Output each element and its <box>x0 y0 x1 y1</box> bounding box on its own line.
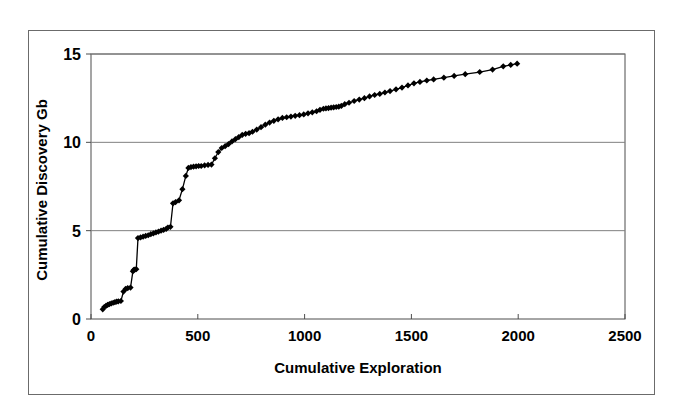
x-tick-label-0: 0 <box>87 327 95 344</box>
y-tick-labels-group: 051015 <box>63 46 81 328</box>
y-tick-label-10: 10 <box>63 134 81 151</box>
plot-area <box>91 54 625 319</box>
y-tick-label-15: 15 <box>63 46 81 63</box>
x-tick-label-1500: 1500 <box>395 327 428 344</box>
y-axis-label: Cumulative Discovery Gb <box>33 99 50 281</box>
chart-canvas: 05001000150020002500 051015 Cumulative E… <box>0 0 676 417</box>
x-tick-label-500: 500 <box>185 327 210 344</box>
x-tick-label-1000: 1000 <box>288 327 321 344</box>
x-axis-label: Cumulative Exploration <box>274 359 442 376</box>
x-tick-label-2500: 2500 <box>608 327 641 344</box>
figure-container: 05001000150020002500 051015 Cumulative E… <box>0 0 676 417</box>
x-tick-label-2000: 2000 <box>502 327 535 344</box>
y-tick-label-0: 0 <box>72 311 81 328</box>
x-tick-labels-group: 05001000150020002500 <box>87 327 642 344</box>
y-tick-marks-group <box>86 54 91 319</box>
y-tick-label-5: 5 <box>72 223 81 240</box>
